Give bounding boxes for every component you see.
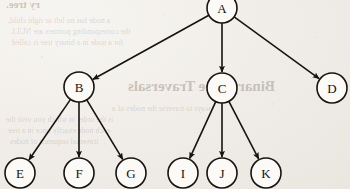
tree-node-b: B: [64, 72, 94, 102]
tree-edge-c-i: [190, 102, 216, 159]
tree-edge-b-g: [87, 100, 123, 159]
tree-node-j: J: [207, 158, 237, 188]
tree-edge-c-k: [229, 101, 259, 158]
scanned-page: ry tree.a node has no left or right chil…: [0, 0, 350, 189]
tree-edge-b-e: [29, 99, 70, 159]
tree-diagram: ABCDEFGIJK: [0, 0, 350, 189]
node-label: J: [219, 166, 224, 181]
tree-edge-a-b: [93, 15, 209, 79]
tree-node-d: D: [317, 73, 347, 103]
node-label: C: [218, 81, 227, 96]
tree-node-e: E: [5, 158, 35, 188]
tree-node-k: K: [251, 158, 281, 188]
tree-node-i: I: [168, 158, 198, 188]
tree-node-f: F: [64, 158, 94, 188]
node-label: A: [217, 1, 227, 16]
node-label: F: [75, 166, 82, 181]
node-label: B: [75, 80, 84, 95]
node-label: D: [327, 81, 336, 96]
node-layer: ABCDEFGIJK: [5, 0, 347, 188]
node-label: G: [126, 166, 135, 181]
tree-node-a: A: [207, 0, 237, 23]
node-label: I: [181, 166, 185, 181]
tree-node-g: G: [116, 158, 146, 188]
node-label: E: [16, 166, 24, 181]
tree-edge-a-d: [234, 17, 319, 79]
node-label: K: [261, 166, 271, 181]
tree-node-c: C: [207, 73, 237, 103]
